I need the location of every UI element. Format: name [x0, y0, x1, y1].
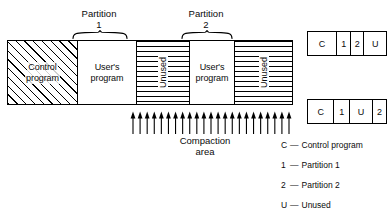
- up-arrow-icon: [258, 112, 263, 135]
- memory-bar: Control program User's program Unused Us…: [7, 40, 293, 105]
- user-program-1-line1: User's: [95, 62, 120, 72]
- partition-2-label: Partition 2: [163, 8, 249, 30]
- up-arrow-icon: [152, 112, 157, 135]
- up-arrow-icon: [194, 112, 199, 135]
- map-before-cell-u[interactable]: U: [364, 32, 386, 55]
- control-program-line1: Control: [27, 62, 57, 73]
- up-arrow-icon: [145, 112, 150, 135]
- compaction-area-line2: area: [150, 146, 260, 157]
- legend-text-2: Partition 2: [302, 180, 340, 190]
- up-arrow-icon: [138, 112, 143, 135]
- up-arrow-icon: [159, 112, 164, 135]
- legend-item-1: 1 — Partition 1: [281, 160, 392, 170]
- partition-1-label-line2: 1: [56, 19, 142, 30]
- map-before-cell-2[interactable]: 2: [351, 32, 364, 55]
- up-arrow-icon: [187, 112, 192, 135]
- legend-dash-2: —: [290, 180, 302, 190]
- legend: C — Control program 1 — Partition 1 2 — …: [281, 140, 392, 220]
- legend-item-c: C — Control program: [281, 140, 392, 150]
- map-after-compaction: C 1 U 2: [307, 99, 387, 124]
- legend-dash-u: —: [290, 200, 302, 210]
- partition-1-label-line1: Partition: [56, 8, 142, 19]
- map-after-cell-c[interactable]: C: [308, 100, 334, 123]
- segment-user-program-1[interactable]: User's program: [78, 41, 137, 104]
- diagram-canvas: Partition 1 Partition 2 Control program …: [0, 0, 392, 224]
- segment-control-program-label: Control program: [24, 62, 61, 84]
- legend-key-2: 2: [281, 180, 290, 190]
- up-arrow-icon: [280, 112, 285, 135]
- legend-key-1: 1: [281, 160, 290, 170]
- control-program-line2: program: [25, 73, 60, 84]
- up-arrow-icon: [237, 112, 242, 135]
- legend-text-u: Unused: [302, 200, 331, 210]
- up-arrow-icon: [223, 112, 228, 135]
- segment-unused-2[interactable]: Unused: [235, 41, 292, 104]
- map-before-cell-c[interactable]: C: [308, 32, 337, 55]
- partition-1-bracket: [72, 30, 128, 39]
- legend-key-u: U: [281, 200, 290, 210]
- map-after-cell-2[interactable]: 2: [373, 100, 386, 123]
- up-arrow-icon-group: [129, 111, 293, 135]
- user-program-2-line1: User's: [200, 62, 225, 72]
- partition-2-label-line2: 2: [163, 19, 249, 30]
- up-arrow-icon: [173, 112, 178, 135]
- segment-user-program-2[interactable]: User's program: [190, 41, 235, 104]
- up-arrow-icon: [272, 112, 277, 135]
- segment-user-program-2-label: User's program: [195, 62, 230, 84]
- legend-key-c: C: [281, 140, 290, 150]
- segment-control-program[interactable]: Control program: [8, 41, 78, 104]
- up-arrow-icon: [180, 112, 185, 135]
- legend-text-1: Partition 1: [302, 160, 340, 170]
- up-arrow-icon: [244, 112, 249, 135]
- legend-item-2: 2 — Partition 2: [281, 180, 392, 190]
- legend-dash-1: —: [290, 160, 302, 170]
- segment-unused-2-label: Unused: [259, 55, 269, 90]
- up-arrow-icon: [230, 112, 235, 135]
- up-arrow-icon: [216, 112, 221, 135]
- up-arrow-icon: [131, 112, 136, 135]
- partition-2-label-line1: Partition: [163, 8, 249, 19]
- legend-text-c: Control program: [302, 140, 363, 150]
- user-program-2-line2: program: [196, 73, 229, 83]
- map-after-cell-u[interactable]: U: [350, 100, 373, 123]
- partition-1-label: Partition 1: [56, 8, 142, 30]
- segment-unused-1[interactable]: Unused: [137, 41, 190, 104]
- legend-item-u: U — Unused: [281, 200, 392, 210]
- up-arrow-icon: [209, 112, 214, 135]
- segment-unused-1-label: Unused: [158, 55, 168, 90]
- map-before-compaction: C 1 2 U: [307, 31, 387, 56]
- up-arrow-icon: [287, 112, 292, 135]
- compaction-area-label: Compaction area: [150, 135, 260, 157]
- up-arrow-icon: [166, 112, 171, 135]
- compaction-arrows: [129, 111, 293, 135]
- map-before-cell-1[interactable]: 1: [337, 32, 351, 55]
- partition-2-bracket: [181, 30, 233, 39]
- legend-dash-c: —: [290, 140, 302, 150]
- up-arrow-icon: [265, 112, 270, 135]
- up-arrow-icon: [251, 112, 256, 135]
- segment-user-program-1-label: User's program: [90, 62, 125, 84]
- compaction-area-line1: Compaction: [150, 135, 260, 146]
- user-program-1-line2: program: [91, 73, 124, 83]
- map-after-cell-1[interactable]: 1: [334, 100, 350, 123]
- up-arrow-icon: [202, 112, 207, 135]
